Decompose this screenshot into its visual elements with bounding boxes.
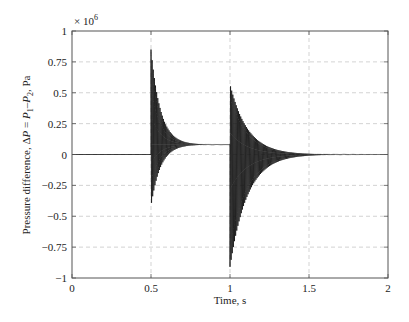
y-multiplier: × 106 xyxy=(74,13,98,27)
y-tick-label: 1 xyxy=(62,25,68,37)
x-tick-label: 2 xyxy=(385,282,391,294)
x-tick-label: 0.5 xyxy=(144,282,158,294)
x-axis-label: Time, s xyxy=(214,294,247,306)
y-tick-label: 0.25 xyxy=(48,118,68,130)
y-tick-label: 0.75 xyxy=(48,56,68,68)
y-tick-label: −0.5 xyxy=(47,210,67,222)
y-tick-label: 0 xyxy=(62,149,68,161)
x-tick-label: 1 xyxy=(227,282,233,294)
x-tick-label: 0 xyxy=(69,282,75,294)
pressure-chart: 00.511.52 −1−0.75−0.5−0.2500.250.50.751 … xyxy=(0,0,409,322)
y-tick-label: −1 xyxy=(55,272,67,284)
y-axis-label: Pressure difference, ΔP = P1–P2, Pa xyxy=(20,75,35,234)
x-tick-label: 1.5 xyxy=(302,282,316,294)
y-tick-label: 0.5 xyxy=(53,87,67,99)
y-tick-label: −0.75 xyxy=(42,241,68,253)
y-tick-labels: −1−0.75−0.5−0.2500.250.50.751 xyxy=(42,25,68,284)
y-tick-label: −0.25 xyxy=(42,179,68,191)
x-tick-labels: 00.511.52 xyxy=(69,282,391,294)
